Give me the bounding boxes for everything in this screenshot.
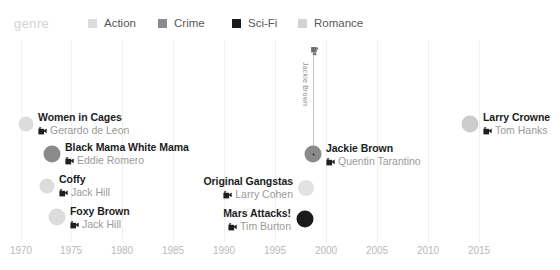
movie-camera-icon [223,191,232,199]
legend-title: genre [14,16,49,31]
legend-item-romance[interactable]: Romance [298,17,363,29]
grid-line-2015 [479,40,480,242]
data-point[interactable] [305,146,322,163]
legend-swatch-icon [232,19,241,28]
film-director: Tom Hanks [495,124,548,136]
film-title: Black Mama White Mama [65,141,189,153]
x-axis-tick-label: 1975 [60,245,82,256]
x-axis-tick-label: 1990 [213,245,235,256]
data-point[interactable] [297,211,314,228]
film-director-row: Quentin Tarantino [326,155,421,167]
movie-camera-icon [228,223,237,231]
point-annotation: Jackie BrownQuentin Tarantino [326,142,421,168]
data-point[interactable] [298,180,314,196]
grid-line-2000 [326,40,327,242]
movie-camera-icon [38,127,47,135]
film-title: Larry Crowne [483,111,550,123]
film-director: Larry Cohen [235,188,293,200]
film-director-row: Larry Cohen [0,188,293,200]
point-annotation: Women in CagesGerardo de Leon [38,111,129,137]
timeline-chart: genre ActionCrimeSci-FiRomance Jackie Br… [0,0,560,270]
film-director: Tim Burton [240,220,291,232]
film-director-row: Gerardo de Leon [38,124,129,136]
point-annotation: Larry CrowneTom Hanks [483,111,550,137]
film-title: Original Gangstas [0,175,293,187]
film-director: Quentin Tarantino [338,155,421,167]
data-point[interactable] [462,116,479,133]
film-director-row: Eddie Romero [65,154,189,166]
legend-swatch-icon [88,19,97,28]
legend-item-label: Romance [314,17,363,29]
legend-swatch-icon [298,19,307,28]
legend-item-crime[interactable]: Crime [158,17,205,29]
legend-swatch-icon [158,19,167,28]
point-annotation: Mars Attacks!Tim Burton [0,207,291,233]
legend-item-label: Crime [174,17,205,29]
film-director: Gerardo de Leon [50,124,129,136]
legend-item-label: Action [104,17,136,29]
data-point-selected-marker [312,153,314,155]
point-annotation: Original GangstasLarry Cohen [0,175,293,201]
leader-label: Jackie Brown [302,62,309,106]
x-axis-tick-label: 2015 [468,245,490,256]
x-axis-tick-label: 1970 [10,245,32,256]
movie-camera-icon [483,127,492,135]
x-axis-tick-label: 2000 [315,245,337,256]
data-point[interactable] [19,117,34,132]
movie-camera-icon [311,47,319,56]
film-director: Eddie Romero [77,154,144,166]
legend-item-sci-fi[interactable]: Sci-Fi [232,17,277,29]
movie-camera-icon [326,158,335,166]
legend-item-label: Sci-Fi [248,17,277,29]
grid-line-2005 [377,40,378,242]
x-axis-tick-label: 1980 [111,245,133,256]
film-title: Mars Attacks! [0,207,291,219]
movie-camera-icon [65,157,74,165]
x-axis-tick-label: 1985 [162,245,184,256]
leader-line [313,47,314,152]
x-axis-tick-label: 1995 [264,245,286,256]
data-point[interactable] [44,146,61,163]
x-axis-tick-label: 2010 [417,245,439,256]
leader-camera-icon-wrap [311,47,319,56]
film-director-row: Tom Hanks [483,124,550,136]
film-director-row: Tim Burton [0,220,291,232]
point-annotation: Black Mama White MamaEddie Romero [65,141,189,167]
grid-line-2010 [428,40,429,242]
film-title: Women in Cages [38,111,129,123]
x-axis-tick-label: 2005 [366,245,388,256]
film-title: Jackie Brown [326,142,421,154]
legend-item-action[interactable]: Action [88,17,136,29]
